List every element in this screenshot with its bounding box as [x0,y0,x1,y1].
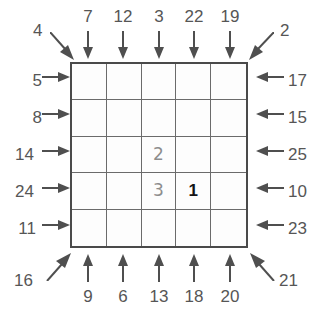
grid-cell-r2c3[interactable] [142,100,177,136]
grid-cell-r2c4[interactable] [176,100,211,136]
grid-cell-r3c5[interactable] [211,137,246,173]
arrow-down-icon-col5 [224,31,236,59]
grid-cell-r4c4[interactable]: 1 [176,173,211,209]
grid-cell-r4c5[interactable] [211,173,246,209]
grid-cell-r4c2[interactable] [107,173,142,209]
arrow-right-icon-row1 [42,71,70,83]
grid-cell-r1c4[interactable] [176,64,211,100]
arrow-down-icon-col4 [188,31,200,59]
grid-cell-r1c5[interactable] [211,64,246,100]
arrow-left-icon-row2 [256,108,284,120]
clue-right-3: 25 [288,146,318,163]
clue-left-4: 24 [4,183,34,200]
arrow-down-icon-col3 [153,31,165,59]
clue-right-5: 23 [288,220,318,237]
grid-cell-r5c4[interactable] [176,210,211,246]
grid-cell-r3c4[interactable] [176,137,211,173]
arrow-left-icon-row1 [256,71,284,83]
arrow-up-icon-col4 [188,254,200,282]
grid-cell-r1c1[interactable] [72,64,107,100]
clue-bottom-2: 6 [105,288,141,305]
cell-value: 1 [189,182,198,199]
arrow-up-icon-col5 [224,254,236,282]
arrow-left-icon-row5 [256,219,284,231]
arrow-up-icon-col2 [117,254,129,282]
clue-top-3: 3 [141,8,177,25]
arrow-left-icon-row3 [256,145,284,157]
clue-bottom-3: 13 [141,288,177,305]
puzzle-diagram: 7 12 3 22 19 4 2 5 8 14 24 11 [0,0,320,313]
arrow-left-icon-row4 [256,182,284,194]
grid-cell-r4c1[interactable] [72,173,107,209]
grid-cell-r5c5[interactable] [211,210,246,246]
clue-right-4: 10 [288,183,318,200]
puzzle-grid[interactable]: 2 3 1 [70,62,248,248]
clue-right-1: 17 [288,72,318,89]
cell-value: 2 [153,146,164,163]
grid-cell-r5c3[interactable] [142,210,177,246]
grid-cell-r4c3[interactable]: 3 [142,173,177,209]
grid-cell-r2c5[interactable] [211,100,246,136]
grid-cell-r2c1[interactable] [72,100,107,136]
arrow-right-icon-row2 [42,108,70,120]
arrow-diagonal-up-right-icon [45,253,73,281]
grid-cell-r5c1[interactable] [72,210,107,246]
arrow-down-icon-col1 [82,31,94,59]
arrow-diagonal-down-right-icon [50,32,76,60]
clue-bottom-1: 9 [70,288,106,305]
clue-corner-top-right: 2 [280,22,289,39]
grid-cell-r3c1[interactable] [72,137,107,173]
clue-left-5: 11 [6,220,36,237]
arrow-down-icon-col2 [117,31,129,59]
grid-cell-r5c2[interactable] [107,210,142,246]
arrow-diagonal-down-left-icon [246,32,274,60]
clue-left-2: 8 [12,109,42,126]
arrow-right-icon-row3 [42,145,70,157]
clue-corner-top-left: 4 [33,22,42,39]
clue-top-2: 12 [105,8,141,25]
clue-right-2: 15 [288,109,318,126]
grid-cell-r3c3[interactable]: 2 [142,137,177,173]
clue-left-1: 5 [12,72,42,89]
clue-corner-bottom-left: 16 [14,272,33,289]
clue-top-5: 19 [212,8,248,25]
grid-cell-r1c3[interactable] [142,64,177,100]
clue-bottom-4: 18 [176,288,212,305]
cell-value: 3 [153,182,164,199]
arrow-up-icon-col1 [82,254,94,282]
arrow-right-icon-row4 [42,182,70,194]
clue-top-4: 22 [176,8,212,25]
clue-bottom-5: 20 [212,288,248,305]
grid-cell-r1c2[interactable] [107,64,142,100]
clue-top-1: 7 [70,8,106,25]
clue-corner-bottom-right: 21 [279,272,298,289]
clue-left-3: 14 [4,146,34,163]
arrow-up-icon-col3 [153,254,165,282]
grid-cell-r2c2[interactable] [107,100,142,136]
grid-cell-r3c2[interactable] [107,137,142,173]
arrow-diagonal-up-left-icon [248,253,276,281]
arrow-right-icon-row5 [42,219,70,231]
